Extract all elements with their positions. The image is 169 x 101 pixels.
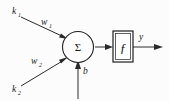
input-2-weight-base: w [31, 56, 38, 66]
input-2-weight-label: w 2 [31, 56, 42, 68]
input-2-signal-base: k [12, 84, 17, 94]
input-1-signal-label: k 1 [12, 6, 21, 18]
input-1-signal-base: k [12, 6, 17, 16]
sigma-symbol: Σ [75, 41, 81, 53]
input-2-connection [21, 57, 68, 86]
input-1-weight-base: w [41, 17, 48, 27]
sigma-to-activation-connection [95, 44, 113, 50]
input-2-weight-subscript: 2 [39, 62, 42, 68]
activation-function-symbol: ƒ [120, 40, 127, 55]
neuron-diagram: Σ ƒ k 1 w 1 k 2 w 2 b y [0, 0, 169, 101]
input-2-signal-label: k 2 [12, 84, 21, 96]
bias-label: b [83, 66, 88, 76]
activation-function-box: ƒ [113, 31, 133, 62]
input-1-weight-subscript: 1 [49, 23, 52, 29]
summation-node: Σ [63, 32, 94, 63]
bias-connection [75, 60, 81, 99]
input-2-signal-subscript: 2 [18, 90, 21, 96]
output-label: y [138, 32, 144, 42]
output-connection [133, 44, 163, 50]
input-1-signal-subscript: 1 [18, 12, 21, 18]
